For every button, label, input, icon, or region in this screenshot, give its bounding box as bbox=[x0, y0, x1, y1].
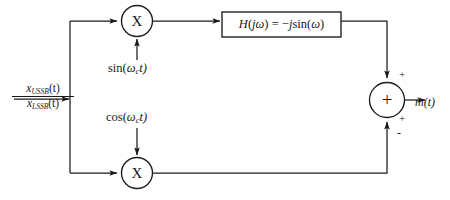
summer-symbol: + bbox=[377, 89, 397, 111]
summer-sign-bottom-minus: - bbox=[397, 126, 401, 141]
output-signal-label: m(t) bbox=[415, 96, 435, 108]
summer-sign-bottom-plus: + bbox=[399, 112, 405, 124]
sin-carrier-label: sin(ωct) bbox=[108, 62, 147, 75]
input-label-numerator: xUSSB(t) bbox=[12, 82, 74, 96]
wire-lower-mult-to-summer bbox=[153, 122, 387, 173]
filter-transfer-function-label: H(jω) = −jsin(ω) bbox=[222, 12, 341, 37]
upper-multiplier-symbol: X bbox=[127, 13, 147, 30]
wire-filter-to-summer bbox=[341, 21, 387, 78]
cos-carrier-label: cos(ωct) bbox=[106, 111, 147, 124]
lower-multiplier-symbol: X bbox=[127, 165, 147, 182]
block-diagram: X X + xUSSB(t) xLSSB(t) sin(ωct) cos(ωct… bbox=[0, 0, 450, 200]
summer-sign-top: + bbox=[399, 68, 405, 80]
input-signal-label: xUSSB(t) xLSSB(t) bbox=[12, 82, 74, 111]
input-label-denominator: xLSSB(t) bbox=[12, 97, 74, 111]
